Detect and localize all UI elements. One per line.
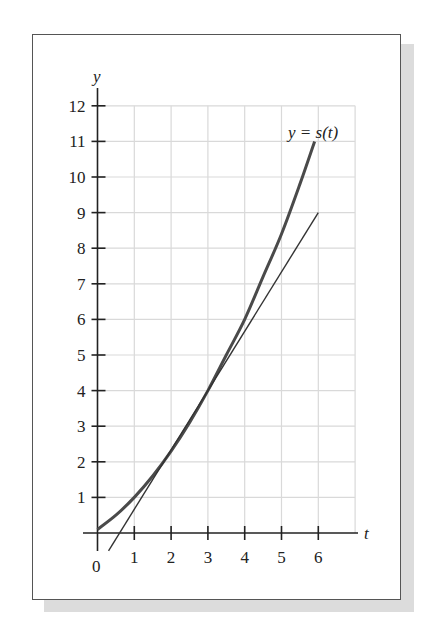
x-tick-label: 4 (240, 548, 249, 567)
x-tick-label: 6 (314, 548, 323, 567)
x-tick-label: 5 (277, 548, 286, 567)
y-tick-label: 12 (69, 97, 86, 116)
ticks: 123456789101112123456 (69, 97, 323, 567)
y-tick-label: 6 (77, 310, 86, 329)
y-tick-label: 4 (77, 382, 86, 401)
tangent-line (109, 213, 319, 551)
y-tick-label: 1 (77, 488, 86, 507)
y-tick-label: 11 (69, 132, 85, 151)
chart: 123456789101112123456 y t y = s(t) 0 (0, 0, 427, 640)
y-tick-label: 2 (77, 453, 86, 472)
y-tick-label: 9 (77, 204, 86, 223)
y-tick-label: 8 (77, 239, 86, 258)
x-axis-label: t (364, 524, 370, 543)
origin-label: 0 (92, 557, 101, 576)
x-tick-label: 3 (204, 548, 213, 567)
y-tick-label: 5 (77, 346, 86, 365)
grid (98, 106, 356, 533)
curve-label: y = s(t) (286, 123, 339, 142)
y-tick-label: 7 (77, 275, 86, 294)
x-tick-label: 1 (130, 548, 139, 567)
x-tick-label: 2 (167, 548, 176, 567)
y-axis-label: y (91, 67, 101, 86)
y-tick-label: 10 (69, 168, 86, 187)
y-tick-label: 3 (77, 417, 86, 436)
